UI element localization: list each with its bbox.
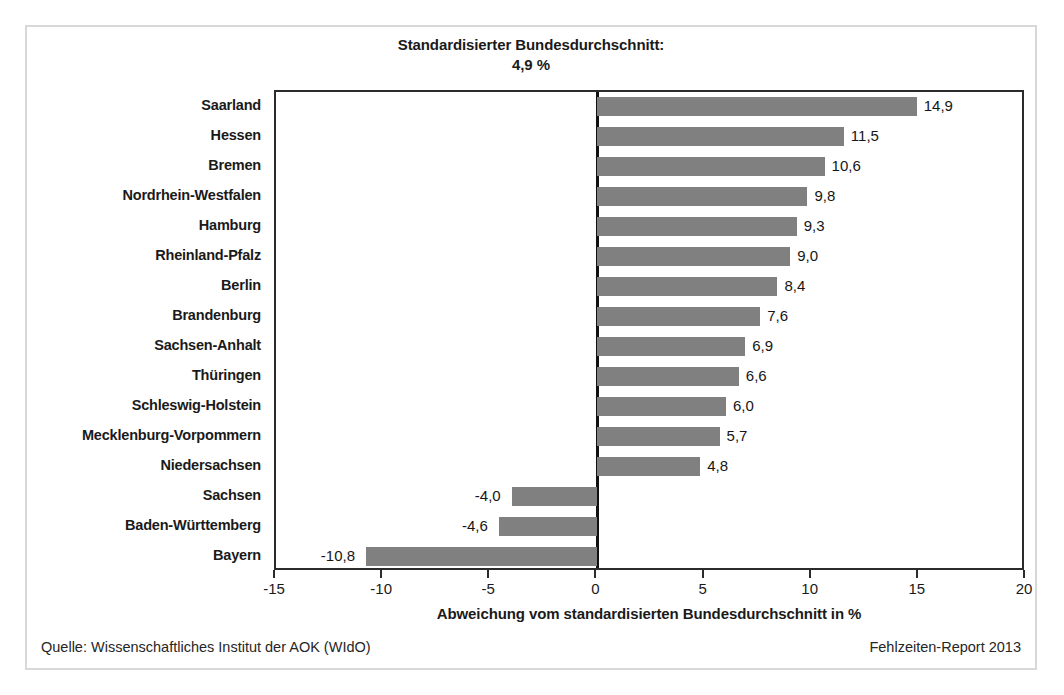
plot-area: 14,911,510,69,89,39,08,47,66,96,66,05,74… [274, 90, 1024, 570]
bar-row: -4,6 [276, 512, 1022, 542]
category-label: Mecklenburg-Vorpommern [82, 420, 261, 450]
bar[interactable] [597, 157, 824, 176]
bar[interactable] [597, 307, 760, 326]
bar-value-label: 9,0 [790, 245, 818, 267]
bar[interactable] [366, 547, 597, 566]
report-note: Fehlzeiten-Report 2013 [869, 636, 1021, 658]
bar-row: 4,8 [276, 452, 1022, 482]
y-axis-category-labels: SaarlandHessenBremenNordrhein-WestfalenH… [27, 90, 270, 570]
bar-value-label: 9,8 [807, 185, 835, 207]
bar[interactable] [597, 127, 843, 146]
x-axis-title: Abweichung vom standardisierten Bundesdu… [274, 605, 1024, 622]
bar[interactable] [597, 427, 719, 446]
category-label: Bayern [213, 540, 261, 570]
chart-figure: Standardisierter Bundesdurchschnitt: 4,9… [25, 25, 1037, 670]
bar-value-label: 9,3 [797, 215, 825, 237]
bar[interactable] [597, 457, 700, 476]
x-tick-label: 10 [801, 579, 818, 599]
bar-value-label: 10,6 [825, 155, 861, 177]
bar-row: 9,3 [276, 212, 1022, 242]
bar[interactable] [597, 247, 790, 266]
chart-title-line1: Standardisierter Bundesdurchschnitt: [27, 35, 1035, 55]
bar[interactable] [512, 487, 598, 506]
x-tick-label: -10 [370, 579, 392, 599]
bar-value-label: 6,6 [739, 365, 767, 387]
category-label: Rheinland-Pfalz [155, 240, 261, 270]
x-tick [916, 570, 918, 578]
bar-value-label: -4,0 [475, 485, 508, 507]
bar[interactable] [597, 187, 807, 206]
x-tick-label: 15 [909, 579, 926, 599]
bar[interactable] [597, 337, 745, 356]
bar-value-label: 14,9 [917, 95, 953, 117]
x-tick-label: 5 [698, 579, 706, 599]
category-label: Bremen [208, 150, 261, 180]
bar-value-label: 4,8 [700, 455, 728, 477]
x-tick [702, 570, 704, 578]
category-label: Saarland [201, 90, 261, 120]
x-tick-label: 0 [591, 579, 599, 599]
bar-row: -4,0 [276, 482, 1022, 512]
bar-value-label: 8,4 [777, 275, 805, 297]
bar-value-label: -10,8 [321, 545, 362, 567]
bar-row: 9,8 [276, 182, 1022, 212]
bar-row: 10,6 [276, 152, 1022, 182]
bar-row: 7,6 [276, 302, 1022, 332]
category-label: Sachsen-Anhalt [154, 330, 261, 360]
bar[interactable] [597, 277, 777, 296]
category-label: Brandenburg [172, 300, 261, 330]
x-axis-ticks [274, 570, 1024, 578]
chart-title-line2: 4,9 % [27, 55, 1035, 75]
category-label: Baden-Württemberg [125, 510, 261, 540]
category-label: Thüringen [192, 360, 261, 390]
bar[interactable] [597, 397, 726, 416]
category-label: Schleswig-Holstein [132, 390, 261, 420]
x-tick [1023, 570, 1025, 578]
category-label: Hessen [211, 120, 261, 150]
bar-value-label: -4,6 [462, 515, 495, 537]
x-tick [487, 570, 489, 578]
x-tick-label: -5 [482, 579, 495, 599]
x-tick [809, 570, 811, 578]
category-label: Niedersachsen [160, 450, 261, 480]
bar-value-label: 7,6 [760, 305, 788, 327]
bar-row: 8,4 [276, 272, 1022, 302]
bar-row: 5,7 [276, 422, 1022, 452]
bar-row: 9,0 [276, 242, 1022, 272]
category-label: Nordrhein-Westfalen [122, 180, 261, 210]
bar-value-label: 5,7 [720, 425, 748, 447]
x-tick-label: -15 [263, 579, 285, 599]
bar[interactable] [597, 217, 796, 236]
x-tick [273, 570, 275, 578]
bar-row: -10,8 [276, 542, 1022, 572]
bar-row: 6,6 [276, 362, 1022, 392]
category-label: Sachsen [203, 480, 261, 510]
bar-row: 11,5 [276, 122, 1022, 152]
category-label: Hamburg [199, 210, 261, 240]
chart-title: Standardisierter Bundesdurchschnitt: 4,9… [27, 35, 1035, 75]
bar[interactable] [499, 517, 598, 536]
x-tick-label: 20 [1016, 579, 1033, 599]
bar-value-label: 11,5 [844, 125, 879, 147]
bar[interactable] [597, 97, 916, 116]
bar-value-label: 6,9 [745, 335, 773, 357]
x-axis-tick-labels: -15-10-505101520 [274, 579, 1024, 601]
bar-row: 14,9 [276, 92, 1022, 122]
x-tick [380, 570, 382, 578]
bar[interactable] [597, 367, 738, 386]
bar-row: 6,9 [276, 332, 1022, 362]
x-tick [594, 570, 596, 578]
bar-row: 6,0 [276, 392, 1022, 422]
source-note: Quelle: Wissenschaftliches Institut der … [41, 636, 371, 658]
category-label: Berlin [221, 270, 261, 300]
chart-footer: Quelle: Wissenschaftliches Institut der … [27, 636, 1035, 658]
bar-value-label: 6,0 [726, 395, 754, 417]
